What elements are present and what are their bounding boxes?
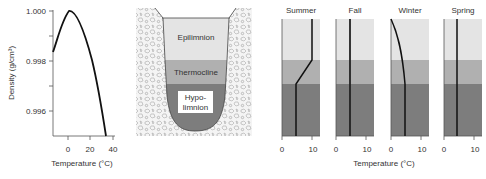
seasons-x-axis-title: Temperature (°C) [353,159,415,168]
thermocline-label: Thermocline [174,68,219,77]
x-tick-label: 20 [86,145,95,154]
panel-title: Fall [349,6,362,15]
y-tick-label: 1.000 [26,7,47,16]
density-chart: 1.000 0.998 0.996 0 20 40 Temperature (°… [7,7,118,168]
panel-title: Summer [286,6,317,15]
panel-fall: Fall 0 10 [334,6,374,154]
x-tick-label: 10 [309,145,318,154]
x-tick-label: 0 [442,145,447,154]
figure: 1.000 0.998 0.996 0 20 40 Temperature (°… [0,0,486,179]
x-tick-label: 10 [363,145,372,154]
lake-diagram: Epilimnion Thermocline Hypo- limnion [136,0,252,140]
epilimnion-label: Epilimnion [178,33,215,42]
y-tick-label: 0.996 [26,107,47,116]
density-curve [53,11,106,136]
x-tick-label: 0 [334,145,339,154]
hypolimnion-label: limnion [183,103,208,112]
panel-title: Spring [451,6,474,15]
x-tick-label: 0 [66,145,71,154]
x-axis-title: Temperature (°C) [51,159,113,168]
panel-title: Winter [398,6,421,15]
hypolimnion-label: Hypo- [185,93,207,102]
y-axis-title: Density (g/cm³) [7,46,16,101]
x-tick-label: 10 [418,145,427,154]
y-tick-label: 0.998 [26,57,47,66]
panel-winter: Winter 0 10 [389,6,429,154]
x-tick-label: 0 [389,145,394,154]
x-tick-label: 40 [109,145,118,154]
x-tick-label: 0 [280,145,285,154]
panel-summer: Summer 0 10 [280,6,320,154]
x-tick-label: 10 [471,145,480,154]
panel-spring: Spring 0 10 [442,6,482,154]
